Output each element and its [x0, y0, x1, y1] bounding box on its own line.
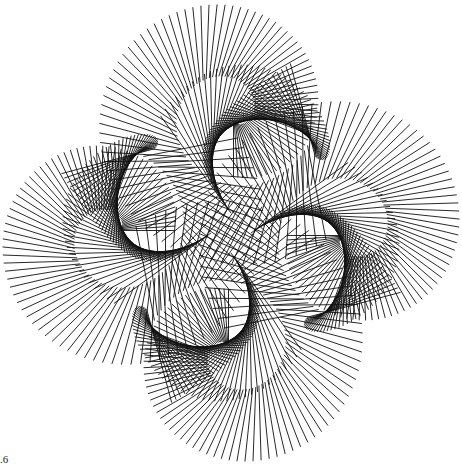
string-art-figure	[0, 0, 462, 469]
corner-label: .6	[0, 453, 8, 465]
pinwheel-arms	[3, 5, 460, 462]
